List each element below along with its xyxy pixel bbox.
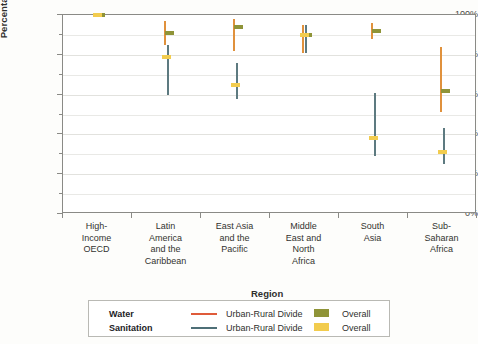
sanitation-overall-marker	[300, 33, 309, 37]
water-divide-line	[302, 25, 304, 53]
gridline	[63, 35, 475, 36]
sanitation-overall-marker	[438, 150, 447, 154]
sanitation-overall-marker	[231, 83, 240, 87]
x-tick	[62, 213, 63, 218]
x-category-label: High-IncomeOECD	[62, 221, 131, 256]
x-tick	[476, 213, 477, 218]
gridline	[63, 75, 475, 76]
sanitation-overall-marker	[369, 136, 378, 140]
legend-line-swatch	[191, 313, 217, 315]
y-axis-title: Percentage with Access	[0, 0, 9, 48]
sanitation-divide-line	[443, 128, 445, 164]
water-overall-marker	[234, 25, 243, 29]
legend-divide-label: Urban-Rural Divide	[226, 323, 303, 333]
x-axis-title: Region	[251, 288, 283, 299]
sanitation-divide-line	[236, 63, 238, 99]
sanitation-divide-line	[167, 45, 169, 95]
legend-divide-label: Urban-Rural Divide	[226, 309, 303, 319]
x-category-label: East Asiaand thePacific	[200, 221, 269, 256]
x-category-label: SouthAsia	[338, 221, 407, 244]
sanitation-divide-line	[305, 25, 307, 53]
water-divide-line	[233, 19, 235, 51]
legend-row: SanitationUrban-Rural DivideOverall	[89, 321, 391, 334]
sanitation-divide-line	[374, 93, 376, 157]
legend-category-label: Sanitation	[109, 323, 184, 333]
chart-figure: Percentage with Access 0%20%40%60%80%100…	[0, 0, 478, 344]
gridline	[63, 174, 475, 175]
sanitation-overall-marker	[93, 13, 102, 17]
x-tick	[269, 213, 270, 218]
legend-row: WaterUrban-Rural DivideOverall	[89, 307, 391, 320]
water-overall-marker	[372, 29, 381, 33]
gridline	[63, 55, 475, 56]
gridline	[63, 95, 475, 96]
water-overall-marker	[165, 31, 174, 35]
x-category-label: MiddleEast andNorthAfrica	[269, 221, 338, 267]
legend-overall-label: Overall	[342, 309, 371, 319]
legend-category-label: Water	[109, 309, 184, 319]
legend-overall-label: Overall	[342, 323, 371, 333]
x-tick	[200, 213, 201, 218]
gridline	[63, 194, 475, 195]
legend-line-swatch	[191, 327, 217, 329]
x-category-label: Sub-SaharanAfrica	[407, 221, 476, 256]
plot-area	[62, 14, 476, 213]
x-category-label: LatinAmericaand theCaribbean	[131, 221, 200, 267]
gridline	[63, 154, 475, 155]
water-overall-marker	[441, 89, 450, 93]
x-tick	[131, 213, 132, 218]
water-divide-line	[440, 47, 442, 113]
gridline	[63, 115, 475, 116]
legend-color-swatch	[314, 323, 329, 331]
sanitation-overall-marker	[162, 55, 171, 59]
x-tick	[338, 213, 339, 218]
gridline	[63, 134, 475, 135]
x-tick	[407, 213, 408, 218]
legend-color-swatch	[314, 309, 329, 317]
legend: WaterUrban-Rural DivideOverallSanitation…	[88, 300, 390, 337]
